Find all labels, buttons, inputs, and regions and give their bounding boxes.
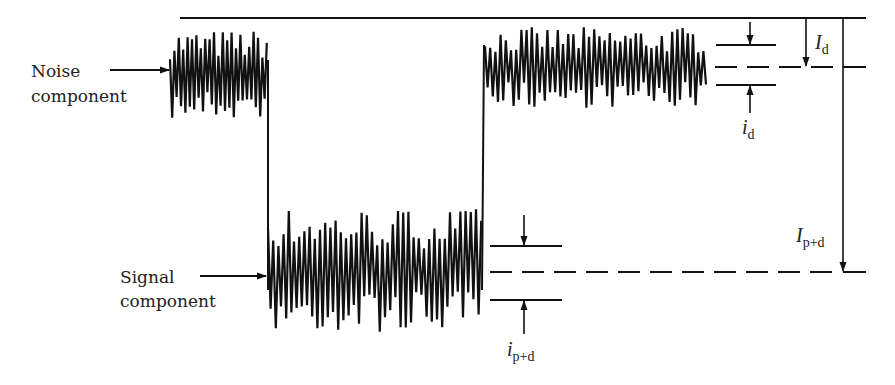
noise-trace — [268, 209, 481, 331]
I-pd-symbol: Ip+d — [795, 224, 825, 250]
i-pd-symbol: ip+d — [507, 338, 534, 364]
I-d-symbol: Id — [814, 31, 829, 57]
noise-trace — [170, 32, 267, 118]
i-d-symbol: id — [742, 116, 755, 142]
noise-trace — [485, 27, 706, 108]
noise-label-line2: component — [31, 86, 127, 106]
signal-label-line1: Signal — [120, 267, 175, 287]
signal-label-line2: component — [120, 291, 216, 311]
noise-label-line1: Noise — [31, 61, 80, 81]
waveform — [170, 27, 706, 332]
rising-edge — [482, 45, 484, 290]
noise-signal-diagram: Noise component Signal component id Id I… — [0, 0, 895, 385]
